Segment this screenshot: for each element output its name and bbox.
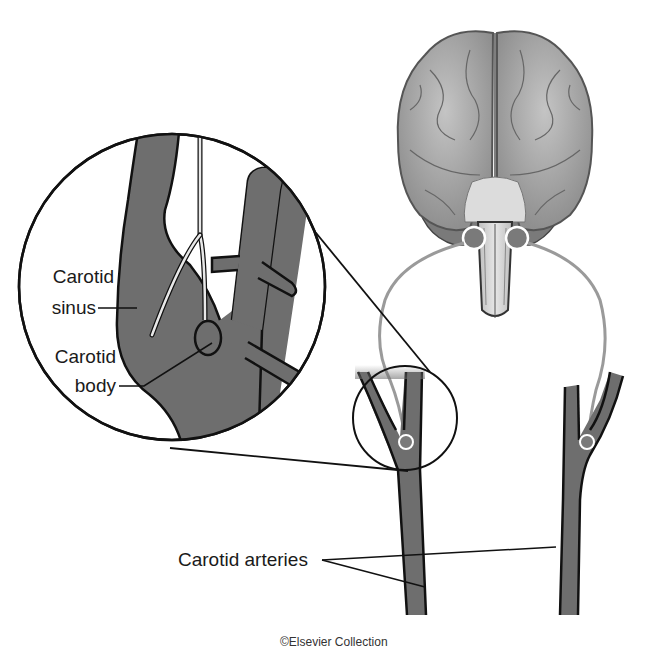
carotid-body-oval [195,321,221,355]
label-carotid-body-line1: Carotid [38,346,116,368]
label-carotid-sinus-line1: Carotid [28,266,114,288]
copyright-credit: ©Elsevier Collection [280,635,388,649]
label-carotid-arteries: Carotid arteries [178,549,308,571]
right-carotid-body [580,435,594,449]
carotid-diagram [0,0,656,662]
label-carotid-sinus-line2: sinus [28,297,96,319]
magnified-inset [19,120,325,460]
left-carotid-body [399,435,413,449]
label-carotid-body-line2: body [38,375,116,397]
brain [398,31,593,245]
